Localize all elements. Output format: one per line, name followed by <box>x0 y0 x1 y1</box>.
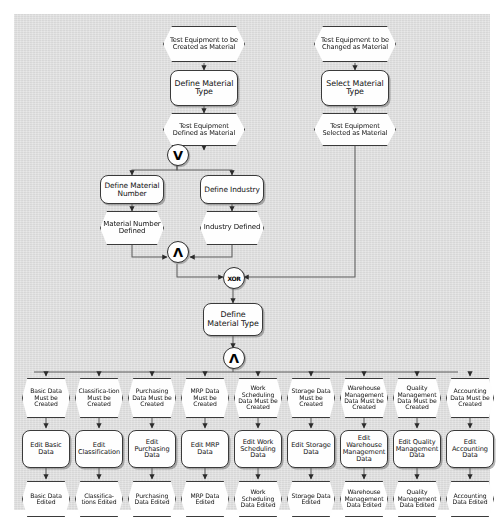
connector-and-2[interactable]: Λ <box>223 347 245 369</box>
event-must-create-0: Basic Data Must be Created <box>22 378 70 418</box>
function-edit-2[interactable]: Edit Purchasing Data <box>128 430 176 468</box>
function-define-material-type-main[interactable]: Define Material Type <box>203 303 263 336</box>
diagram-stage: Test Equipment to be Created as Material… <box>0 0 502 524</box>
event-test-equipment-to-be-created: Test Equipment to be Created as Material <box>163 26 245 62</box>
function-edit-3[interactable]: Edit MRP Data <box>181 430 229 468</box>
event-must-create-1: Classifica-tion Must be Created <box>75 378 123 418</box>
event-edited-5: Storage Data Edited <box>287 481 335 517</box>
event-edited-2: Purchasing Data Edited <box>128 481 176 517</box>
connector-and-1[interactable]: Λ <box>167 241 189 263</box>
event-must-create-2: Purchasing Data Must be Created <box>128 378 176 418</box>
event-edited-3: MRP Data Edited <box>181 481 229 517</box>
event-edited-6: Warehouse Management Data Edited <box>340 481 388 517</box>
function-edit-5[interactable]: Edit Storage Data <box>287 430 335 468</box>
xor-glyph: XOR <box>227 275 240 282</box>
event-test-equipment-selected: Test Equipment Selected as Material <box>314 113 396 146</box>
event-must-create-6: Warehouse Management Data Must be Create… <box>340 378 388 418</box>
event-material-number-defined: Material Number Defined <box>100 211 164 245</box>
event-test-equipment-to-be-changed: Test Equipment to be Changed as Material <box>314 26 396 62</box>
and-glyph-2: Λ <box>229 352 239 365</box>
event-test-equipment-defined: Test Equipment Defined as Material <box>163 113 245 146</box>
function-define-material-number[interactable]: Define Material Number <box>100 175 164 204</box>
event-must-create-7: Quality Management Data Must be Created <box>393 378 441 418</box>
function-select-material-type[interactable]: Select Material Type <box>321 70 389 106</box>
event-must-create-8: Accounting Data Must be Created <box>446 378 494 418</box>
event-must-create-3: MRP Data Must be Created <box>181 378 229 418</box>
function-define-industry[interactable]: Define Industry <box>200 175 264 204</box>
connector-or-1[interactable]: V <box>167 144 189 166</box>
function-edit-4[interactable]: Edit Work Scheduling Data <box>234 430 282 468</box>
function-edit-1[interactable]: Edit Classification <box>75 430 123 468</box>
event-edited-1: Classifica-tions Edited <box>75 481 123 517</box>
and-glyph: Λ <box>173 246 183 259</box>
event-edited-7: Quality Management Data Edited <box>393 481 441 517</box>
event-edited-0: Basic Data Edited <box>22 481 70 517</box>
function-edit-0[interactable]: Edit Basic Data <box>22 430 70 468</box>
function-define-material-type-top[interactable]: Define Material Type <box>170 70 238 106</box>
event-edited-8: Accounting Data Edited <box>446 481 494 517</box>
function-edit-6[interactable]: Edit Warehouse Management Data <box>340 430 388 468</box>
function-edit-8[interactable]: Edit Accounting Data <box>446 430 494 468</box>
event-industry-defined: Industry Defined <box>200 211 264 245</box>
function-edit-7[interactable]: Edit Quality Management Data <box>393 430 441 468</box>
or-glyph: V <box>173 149 183 162</box>
event-must-create-4: Work Scheduling Data Must be Created <box>234 378 282 418</box>
event-edited-4: Work Scheduling Data Edited <box>234 481 282 517</box>
connector-xor-1[interactable]: XOR <box>223 267 245 289</box>
event-must-create-5: Storage Data Must be Created <box>287 378 335 418</box>
